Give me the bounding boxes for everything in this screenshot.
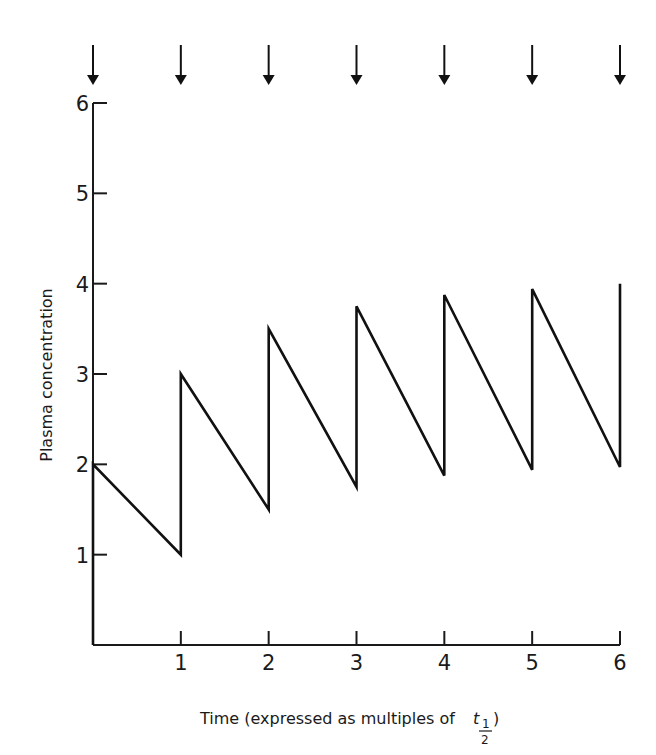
x-tick-label: 1: [174, 651, 187, 675]
chart: 123456 123456 Plasma concentration Time …: [0, 0, 656, 755]
dose-arrow-icon: [614, 75, 626, 85]
dose-arrow-icon: [175, 75, 187, 85]
dose-arrows: [87, 45, 626, 85]
dose-arrow-icon: [526, 75, 538, 85]
y-tick-label: 2: [76, 453, 89, 477]
dose-arrow-icon: [87, 75, 99, 85]
x-axis-label-symbol: t: [473, 709, 480, 728]
y-tick-label: 4: [76, 273, 89, 297]
y-ticks: 123456: [76, 92, 107, 568]
x-axis-label-sub-num: 1: [482, 717, 490, 731]
x-axis-label: Time (expressed as multiples of t 1 2 ): [199, 709, 499, 747]
x-tick-label: 3: [350, 651, 363, 675]
x-ticks: 123456: [174, 631, 627, 675]
x-tick-label: 5: [525, 651, 538, 675]
y-tick-label: 5: [76, 182, 89, 206]
dose-arrow-icon: [438, 75, 450, 85]
x-tick-label: 6: [613, 651, 626, 675]
x-axis-label-close: ): [493, 709, 499, 728]
y-tick-label: 6: [76, 92, 89, 116]
concentration-line: [93, 284, 620, 645]
dose-arrow-icon: [351, 75, 363, 85]
y-axis-label: Plasma concentration: [37, 288, 56, 462]
x-tick-label: 4: [438, 651, 451, 675]
x-axis-label-sub-den: 2: [481, 733, 489, 747]
x-axis-label-main: Time (expressed as multiples of: [199, 709, 455, 728]
x-tick-label: 2: [262, 651, 275, 675]
y-tick-label: 3: [76, 363, 89, 387]
y-tick-label: 1: [76, 544, 89, 568]
dose-arrow-icon: [263, 75, 275, 85]
